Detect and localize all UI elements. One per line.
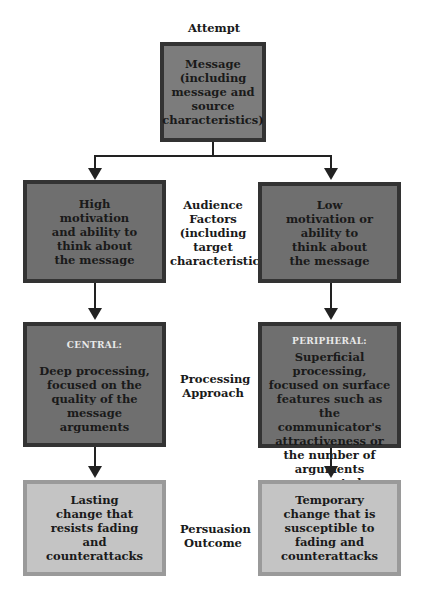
- connector-left-drop: [94, 155, 96, 169]
- connector-right-drop: [330, 155, 332, 169]
- high-motivation-text: High motivation and ability to think abo…: [33, 197, 156, 267]
- persuasion-outcome-label: Persuasion Outcome: [180, 522, 246, 550]
- lasting-change-box: Lasting change that resists fading and c…: [23, 480, 166, 576]
- low-motivation-text: Low motivation or ability to think about…: [268, 198, 391, 268]
- connector-left-2: [94, 283, 96, 311]
- connector-vertical-top: [212, 142, 214, 156]
- peripheral-processing-box: PERIPHERAL: Superficial processing, focu…: [258, 322, 401, 448]
- message-box: Message (including message and source ch…: [160, 42, 266, 142]
- connector-right-2: [330, 283, 332, 311]
- central-tag: CENTRAL:: [67, 338, 122, 352]
- arrow-down-icon: [88, 466, 102, 478]
- arrow-down-icon: [88, 308, 102, 320]
- arrow-down-icon: [324, 308, 338, 320]
- diagram-title: Attempt: [160, 21, 268, 35]
- temporary-change-text: Temporary change that is susceptible to …: [265, 493, 394, 563]
- processing-approach-label: Processing Approach: [180, 372, 246, 400]
- high-motivation-box: High motivation and ability to think abo…: [23, 180, 166, 283]
- peripheral-tag: PERIPHERAL:: [292, 334, 367, 348]
- temporary-change-box: Temporary change that is susceptible to …: [258, 480, 401, 576]
- arrow-down-icon: [324, 466, 338, 478]
- arrow-down-icon: [88, 168, 102, 180]
- arrow-down-icon: [324, 168, 338, 180]
- message-box-text: Message (including message and source ch…: [162, 57, 263, 127]
- audience-factors-label: Audience Factors (including target chara…: [170, 198, 256, 268]
- connector-horizontal: [94, 155, 332, 157]
- central-processing-text: Deep processing, focused on the quality …: [33, 364, 156, 434]
- lasting-change-text: Lasting change that resists fading and c…: [28, 493, 161, 563]
- low-motivation-box: Low motivation or ability to think about…: [258, 182, 401, 283]
- central-processing-box: CENTRAL: Deep processing, focused on the…: [23, 322, 166, 447]
